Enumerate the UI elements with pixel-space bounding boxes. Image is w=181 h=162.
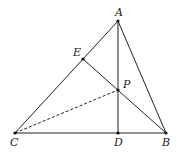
point-c <box>13 131 16 134</box>
segments <box>15 21 166 133</box>
point-p <box>116 88 119 91</box>
label-p: P <box>122 78 131 91</box>
point-e <box>81 57 84 60</box>
label-a: A <box>114 6 123 19</box>
label-c: C <box>10 136 19 149</box>
point-a <box>116 19 119 22</box>
segment-ab <box>118 21 166 133</box>
labels: AEPCDB <box>10 6 170 149</box>
segment-eb <box>83 59 166 133</box>
points <box>13 19 167 134</box>
label-b: B <box>161 136 170 149</box>
point-d <box>116 131 119 134</box>
label-d: D <box>113 136 123 149</box>
label-e: E <box>72 46 81 59</box>
point-b <box>164 131 167 134</box>
segment-cp <box>15 90 118 133</box>
geometry-diagram: AEPCDB <box>0 0 181 162</box>
